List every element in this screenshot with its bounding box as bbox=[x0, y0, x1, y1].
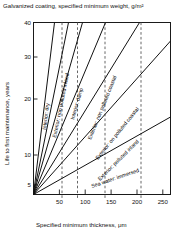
y-axis-title: Life to first maintenance, years bbox=[3, 82, 10, 165]
x-tick-200: 200 bbox=[132, 198, 143, 205]
x-tick-100: 100 bbox=[80, 198, 91, 205]
y-tick-10: 10 bbox=[24, 151, 31, 158]
chart-background bbox=[0, 0, 181, 230]
x-axis-title: Specified minimum thickness, μm bbox=[36, 221, 127, 228]
y-tick-30: 30 bbox=[24, 53, 31, 60]
chart-title: Galvanized coating, specified minimum we… bbox=[3, 2, 144, 9]
x-tick-250: 250 bbox=[158, 198, 169, 205]
chart-canvas: Galvanized coating, specified minimum we… bbox=[0, 0, 181, 230]
x-tick-150: 150 bbox=[106, 198, 117, 205]
y-tick-20: 20 bbox=[24, 95, 31, 102]
chart-figure: Galvanized coating, specified minimum we… bbox=[0, 0, 181, 230]
x-tick-50: 50 bbox=[56, 198, 63, 205]
y-tick-40: 40 bbox=[24, 19, 31, 26]
